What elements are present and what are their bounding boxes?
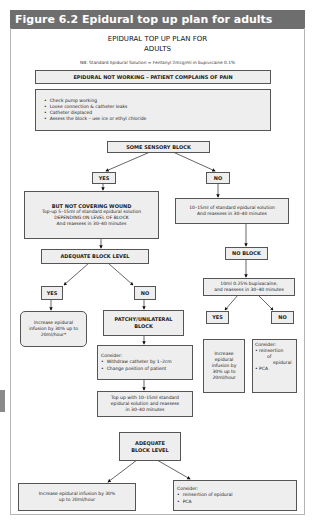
standard-solution-box: 10–15ml of standard epidural solution An… (175, 198, 289, 224)
adequate-block-level-2-box: ADEQUATE BLOCK LEVEL (119, 432, 181, 461)
patchy-block-box: PATCHY/UNILATERAL BLOCK (103, 310, 184, 336)
not-covering-wound-box: BUT NOT COVERING WOUND Top-up 5–15ml of … (24, 191, 159, 239)
increase-bottom-line: up to 20ml/hour (59, 497, 95, 503)
consider-right-box: Consider: • reinsertion of epidural • PC… (252, 339, 297, 393)
adequate2-line: ADEQUATE (135, 440, 165, 447)
check-item: Assess the block – use ice or ethyl chlo… (44, 116, 146, 122)
no-block-box: NO BLOCK (225, 247, 268, 260)
yes-label-1: YES (92, 172, 116, 184)
increase-right-line: 20ml/hour (212, 375, 235, 381)
consider-item: • PCA (255, 366, 268, 372)
consider-item-text: PCA (259, 366, 268, 371)
consider-item: PCA (177, 499, 233, 505)
consider-item-text: reinsertion (259, 348, 283, 353)
bupivacaine-line: and reassess in 30–40 minutes (214, 287, 284, 293)
top-up-line: in 30–40 minutes (126, 407, 165, 413)
increase-left-line: 20ml/hour* (41, 332, 66, 338)
top-up-box: Top up with 10–15ml standard epidural so… (97, 391, 193, 417)
bupivacaine-box: 10ml 0.25% bupivacaine, and reassess in … (203, 278, 295, 296)
decision-sensory-block: SOME SENSORY BLOCK (107, 141, 210, 153)
yes-label-3: YES (206, 311, 229, 324)
yes-label-2: YES (41, 286, 63, 300)
checks-box: Check pump working Loose connection & ca… (35, 89, 271, 131)
not-covering-line: And reassess in 30–40 minutes (57, 221, 127, 227)
no-label-1: NO (206, 172, 230, 184)
increase-infusion-left-box: Increase epidural infusion by 30% up to … (20, 311, 87, 347)
consider-item: Change position of patient (101, 366, 172, 372)
increase-infusion-right-box: Increase epidural infusion by 30% up to … (203, 339, 245, 393)
no-label-3: NO (271, 311, 294, 324)
start-box: EPIDURAL NOT WORKING – PATIENT COMPLAINS… (35, 70, 271, 84)
adequate2-line: BLOCK LEVEL (131, 447, 168, 454)
consider-bottom-box: Consider: reinsertion of epidural PCA (173, 480, 297, 511)
consider-mid-box: Consider: Withdraw catheter by 1–2cm Cha… (97, 345, 193, 380)
consider-item: Withdraw catheter by 1–2cm (101, 359, 172, 365)
patchy-line: BLOCK (134, 323, 153, 330)
patchy-line: PATCHY/UNILATERAL (115, 316, 173, 323)
standard-solution-line: And reassess in 30–40 minutes (197, 211, 267, 217)
increase-infusion-bottom-box: Increase epidural infusion by 30% up to … (18, 483, 136, 511)
not-covering-heading: BUT NOT COVERING WOUND (52, 203, 132, 210)
adequate-block-level-box: ADEQUATE BLOCK LEVEL (41, 249, 149, 264)
consider-item: reinsertion of epidural (177, 492, 233, 498)
no-label-2: NO (134, 286, 156, 300)
